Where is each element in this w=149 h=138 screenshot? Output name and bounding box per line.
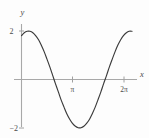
trigonometric-function-plot: y x 2 −2 π 2π (0, 0, 149, 138)
y-axis-label: y (20, 7, 25, 17)
y-tick-label-minus-2: −2 (9, 124, 18, 133)
x-axis-label: x (139, 69, 144, 79)
x-tick-label-pi: π (71, 85, 75, 94)
x-tick-label-2pi: 2π (120, 85, 128, 94)
plot-canvas: y x 2 −2 π 2π (0, 0, 149, 138)
y-tick-label-2: 2 (10, 27, 14, 36)
